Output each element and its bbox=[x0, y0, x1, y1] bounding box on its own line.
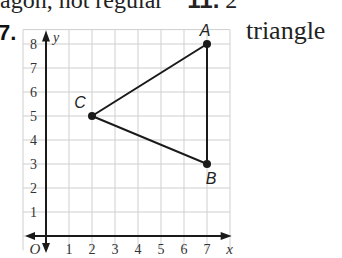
x-tick-label: 5 bbox=[158, 242, 165, 257]
coordinate-graph: 123456712345678OxyABC bbox=[0, 0, 342, 258]
y-axis-down-arrow-icon bbox=[42, 243, 50, 253]
point-label-a: A bbox=[199, 22, 211, 39]
x-tick-label: 4 bbox=[135, 242, 142, 257]
x-tick-label: 2 bbox=[89, 242, 96, 257]
y-tick-label: 4 bbox=[30, 133, 37, 148]
y-tick-label: 5 bbox=[30, 109, 37, 124]
x-tick-label: 6 bbox=[181, 242, 188, 257]
y-axis-up-arrow-icon bbox=[42, 31, 50, 42]
point-a bbox=[203, 40, 211, 48]
point-b bbox=[203, 160, 211, 168]
origin-label: O bbox=[30, 241, 41, 257]
y-tick-label: 6 bbox=[30, 85, 37, 100]
y-tick-label: 7 bbox=[30, 61, 37, 76]
y-axis-label: y bbox=[51, 30, 60, 45]
y-tick-label: 8 bbox=[30, 37, 37, 52]
x-axis-label: x bbox=[225, 241, 233, 257]
x-tick-label: 7 bbox=[204, 242, 211, 257]
y-tick-label: 1 bbox=[30, 205, 37, 220]
y-tick-label: 3 bbox=[30, 157, 37, 172]
point-label-c: C bbox=[74, 94, 86, 111]
point-label-b: B bbox=[206, 170, 217, 187]
point-c bbox=[88, 112, 96, 120]
triangle-abc bbox=[92, 44, 207, 164]
x-tick-label: 1 bbox=[66, 242, 73, 257]
x-axis-left-arrow-icon bbox=[25, 232, 35, 240]
y-tick-label: 2 bbox=[30, 181, 37, 196]
x-tick-label: 3 bbox=[112, 242, 119, 257]
